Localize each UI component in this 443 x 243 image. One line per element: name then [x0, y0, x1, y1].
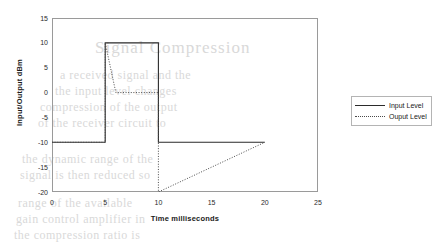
plot-area	[52, 18, 318, 192]
x-tick-label: 5	[90, 199, 120, 206]
x-tick-label: 0	[37, 199, 67, 206]
y-tick-label: 15	[4, 15, 48, 22]
legend-line-sample-icon	[355, 113, 385, 120]
y-tick-label: -5	[4, 114, 48, 121]
x-tick-label: 20	[250, 199, 280, 206]
x-axis-ticks: 0510152025	[0, 199, 443, 211]
y-tick-label: -10	[4, 139, 48, 146]
legend-label: Input Level	[389, 102, 423, 109]
y-tick-label: -15	[4, 164, 48, 171]
y-axis-title: Input/Output dBm	[15, 38, 24, 148]
y-tick-label: 0	[4, 89, 48, 96]
x-tick-label: 10	[143, 199, 173, 206]
legend-label: Ouput Level	[389, 113, 427, 120]
chart-legend: Input LevelOuput Level	[351, 96, 432, 126]
x-tick-label: 15	[197, 199, 227, 206]
x-axis-title: Time milliseconds	[52, 214, 318, 223]
y-tick-label: -20	[4, 189, 48, 196]
x-tick-label: 25	[303, 199, 333, 206]
legend-item: Input Level	[355, 100, 427, 111]
y-tick-label: 10	[4, 39, 48, 46]
legend-line-sample-icon	[355, 102, 385, 109]
y-tick-label: 5	[4, 64, 48, 71]
legend-item: Ouput Level	[355, 111, 427, 122]
